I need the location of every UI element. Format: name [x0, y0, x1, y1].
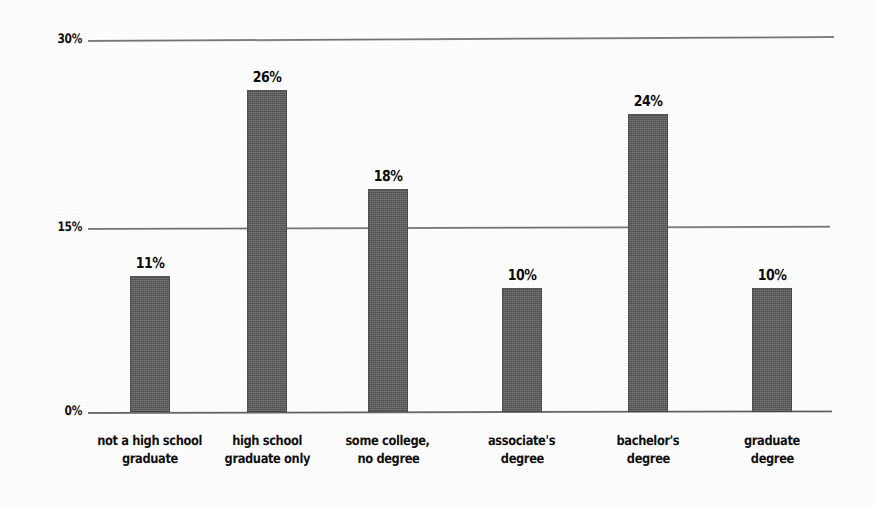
bar-slot-3: 10%: [502, 40, 542, 412]
bar-some-college-no-degree[interactable]: [368, 189, 408, 412]
bar-not-a-high-school-graduate[interactable]: [130, 276, 170, 412]
bar-slot-1: 26%: [247, 40, 287, 412]
bar-value-label-1: 26%: [250, 68, 284, 86]
x-axis-category-label-2: some college,no degree: [313, 432, 463, 468]
bar-graduate-degree[interactable]: [752, 288, 792, 412]
bar-slot-4: 24%: [628, 40, 668, 412]
bar-high-school-graduate-only[interactable]: [247, 90, 287, 412]
bar-value-label-3: 10%: [505, 266, 539, 284]
bar-value-label-4: 24%: [631, 92, 665, 110]
y-axis-tick-30-label: 30%: [46, 32, 82, 47]
bar-chart: 30% 15% 0% 11% 26% 18% 10% 24% 10%: [0, 0, 876, 506]
y-axis-tick-30: 30%: [0, 32, 82, 48]
bar-associates-degree[interactable]: [502, 288, 542, 412]
plot-area: 11% 26% 18% 10% 24% 10%: [88, 40, 834, 412]
bar-slot-5: 10%: [752, 40, 792, 412]
bar-value-label-5: 10%: [755, 266, 789, 284]
x-axis-category-label-5: graduatedegree: [697, 432, 847, 468]
y-axis-tick-15-label: 15%: [46, 220, 82, 235]
bar-value-label-2: 18%: [371, 167, 405, 185]
bar-bachelors-degree[interactable]: [628, 114, 668, 412]
bar-value-label-0: 11%: [133, 254, 167, 272]
bar-slot-0: 11%: [130, 40, 170, 412]
y-axis-tick-15: 15%: [0, 220, 82, 236]
y-axis-tick-0-label: 0%: [46, 404, 82, 419]
y-axis-tick-0: 0%: [0, 404, 82, 420]
bar-slot-2: 18%: [368, 40, 408, 412]
